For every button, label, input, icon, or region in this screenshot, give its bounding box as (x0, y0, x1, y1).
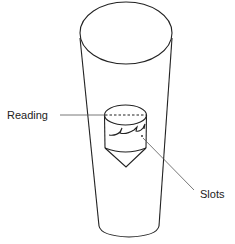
rotameter-diagram (0, 0, 235, 244)
slots-label: Slots (200, 189, 224, 200)
tube-right-wall (159, 38, 172, 226)
float-left-side (105, 115, 106, 148)
tube-left-wall (80, 38, 99, 226)
tube-bottom (99, 226, 159, 237)
tube-top-opening (80, 2, 172, 64)
tapered-tube (80, 2, 172, 237)
reading-label: Reading (7, 110, 48, 121)
float-slots (109, 124, 145, 135)
slots-leader-line (143, 138, 194, 190)
slot-marker-dot (141, 135, 143, 137)
float-right-side (146, 115, 147, 148)
float-body-bottom-curve (105, 148, 146, 152)
float (105, 105, 147, 167)
float-cone (105, 148, 146, 167)
